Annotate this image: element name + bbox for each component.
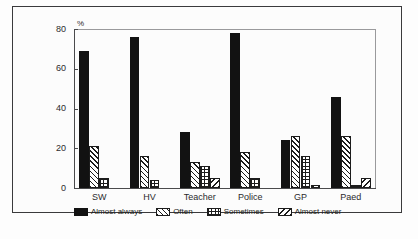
- bar: [240, 152, 250, 188]
- y-axis-tick-label: 20: [44, 144, 66, 153]
- bar: [331, 97, 341, 188]
- y-axis-tick-label: 0: [44, 184, 66, 193]
- bar: [180, 132, 190, 188]
- bar: [99, 178, 109, 188]
- chart-figure: % 020406080 SWHVTeacherPoliceGPPaed Almo…: [0, 0, 418, 239]
- bar: [79, 51, 89, 188]
- bar: [210, 178, 220, 188]
- legend-entry: Often: [156, 208, 193, 216]
- bar: [361, 178, 371, 188]
- x-axis-tick-label: Paed: [321, 192, 381, 202]
- legend-entry: Almost never: [278, 208, 342, 216]
- legend-label: Almost never: [295, 208, 342, 216]
- bar: [281, 140, 291, 188]
- y-axis-tick-mark: [74, 148, 78, 149]
- bar: [230, 33, 240, 188]
- legend-swatch: [74, 208, 88, 216]
- bar: [291, 136, 301, 188]
- y-axis-tick-mark: [74, 69, 78, 70]
- bar: [89, 146, 99, 188]
- legend-swatch: [156, 208, 170, 216]
- y-axis-tick-label: 80: [44, 25, 66, 34]
- bar: [130, 37, 140, 188]
- y-axis-tick-label: 40: [44, 104, 66, 113]
- y-axis-tick-mark: [74, 29, 78, 30]
- legend-label: Almost always: [91, 208, 142, 216]
- legend-entry: Sometimes: [207, 208, 264, 216]
- bar: [140, 156, 150, 188]
- bar: [301, 156, 311, 188]
- legend-swatch: [207, 208, 221, 216]
- y-axis-unit-label: %: [77, 19, 84, 28]
- bar: [351, 185, 361, 188]
- legend-swatch: [278, 208, 292, 216]
- y-axis-tick-mark: [74, 188, 78, 189]
- chart-legend: Almost alwaysOftenSometimesAlmost never: [74, 208, 341, 216]
- legend-entry: Almost always: [74, 208, 142, 216]
- bar: [311, 185, 321, 188]
- legend-label: Sometimes: [224, 208, 264, 216]
- y-axis-tick-label: 60: [44, 64, 66, 73]
- y-axis-tick-mark: [74, 109, 78, 110]
- legend-label: Often: [173, 208, 193, 216]
- bar: [190, 162, 200, 188]
- bar: [150, 180, 160, 188]
- bar: [341, 136, 351, 188]
- x-axis-line: [74, 188, 376, 189]
- bar: [250, 178, 260, 188]
- bar: [200, 166, 210, 188]
